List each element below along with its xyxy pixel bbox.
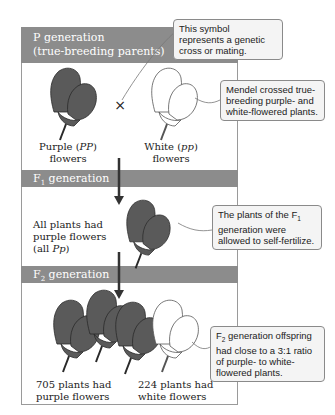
- purple-genotype: PP: [80, 141, 93, 152]
- f2-white-line1: 224 plants had: [138, 379, 213, 391]
- f1-result-label: All plants had purple flowers (all Pp): [33, 219, 106, 255]
- purple-label-text: Purple (: [39, 141, 80, 152]
- white-pp-label: White (pp) flowers: [133, 141, 209, 165]
- white-label-text: White (: [144, 141, 181, 152]
- f2-leader-line: [192, 342, 212, 349]
- callout-f2-ratio: F2 generation offspring had close to a 3…: [210, 326, 325, 382]
- f2-purple-count-label: 705 plants had purple flowers: [36, 379, 111, 403]
- f1-callout-a: The plants of the F: [218, 209, 297, 220]
- purple-flower-icon: [51, 68, 97, 140]
- arrow-p-to-f1-head: [114, 196, 124, 205]
- f2-white-line2: white flowers: [138, 391, 213, 403]
- f1-label-line3-a: (all: [33, 243, 52, 254]
- f1-callout-sub: 1: [297, 215, 301, 222]
- f1-purple-flower-icon: [127, 200, 170, 268]
- f2-callout-b: generation offspring had close to a 3:1 …: [216, 330, 312, 378]
- f1-label-line2: purple flowers: [33, 231, 106, 243]
- purple-pp-label: Purple (PP) flowers: [30, 141, 106, 165]
- f1-genotype: Pp: [52, 243, 65, 254]
- f2-white-count-label: 224 plants had white flowers: [138, 379, 213, 403]
- callout-cross-symbol: This symbol represents a genetic cross o…: [173, 19, 283, 60]
- white-genotype: pp: [181, 141, 194, 152]
- cross-symbol: ×: [114, 97, 126, 113]
- f1-label-line3-c: ): [66, 243, 70, 254]
- f2-white-flower-icon: [153, 300, 199, 372]
- purple-label-line2: flowers: [30, 153, 106, 165]
- f1-leader-line: [178, 223, 212, 231]
- callout-f1-self-fertilize: The plants of the F1 generation were all…: [212, 205, 322, 250]
- white-label-close: ): [194, 141, 198, 152]
- white-label-line2: flowers: [133, 153, 209, 165]
- f2-purple-line2: purple flowers: [36, 391, 111, 403]
- purple-label-close: ): [93, 141, 97, 152]
- white-flower-icon: [152, 68, 198, 140]
- callout-mendel-cross: Mendel crossed true-breeding purple- and…: [220, 80, 325, 121]
- mendel-leader-line: [195, 98, 220, 103]
- f1-label-line1: All plants had: [33, 219, 106, 231]
- f2-purple-line1: 705 plants had: [36, 379, 111, 391]
- f1-callout-b: generation were allowed to self-fertiliz…: [218, 224, 314, 246]
